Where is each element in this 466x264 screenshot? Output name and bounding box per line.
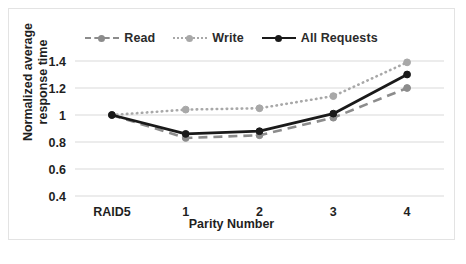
data-point [330, 110, 337, 117]
svg-text:0.8: 0.8 [49, 136, 66, 150]
data-point [256, 128, 263, 135]
data-point [256, 105, 263, 112]
data-point [109, 112, 116, 119]
data-series-layer [109, 59, 411, 141]
data-point [182, 131, 189, 138]
svg-text:0.4: 0.4 [49, 190, 66, 204]
data-point [330, 93, 337, 100]
x-axis-title: Parity Number [9, 217, 454, 231]
svg-text:1: 1 [59, 109, 66, 123]
data-point [404, 59, 411, 66]
data-point [182, 106, 189, 113]
svg-text:1.2: 1.2 [49, 82, 66, 96]
svg-text:1.4: 1.4 [49, 55, 66, 69]
plot-area: 1.41.210.80.60.4 RAID51234 [9, 9, 456, 241]
data-point [404, 85, 411, 92]
svg-text:0.6: 0.6 [49, 163, 66, 177]
y-axis-tick-labels: 1.41.210.80.60.4 [49, 55, 66, 204]
data-point [404, 71, 411, 78]
chart-container: Read Write All Requests Normalized avera… [8, 8, 455, 240]
